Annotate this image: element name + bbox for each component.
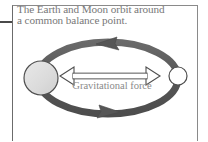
gravitational-force-label: Gravitational force: [62, 80, 162, 91]
orbit-diagram: [0, 0, 208, 142]
moon-body: [169, 67, 187, 85]
figure-root: The Earth and Moon orbit around a common…: [0, 0, 208, 142]
earth-body: [24, 61, 58, 95]
